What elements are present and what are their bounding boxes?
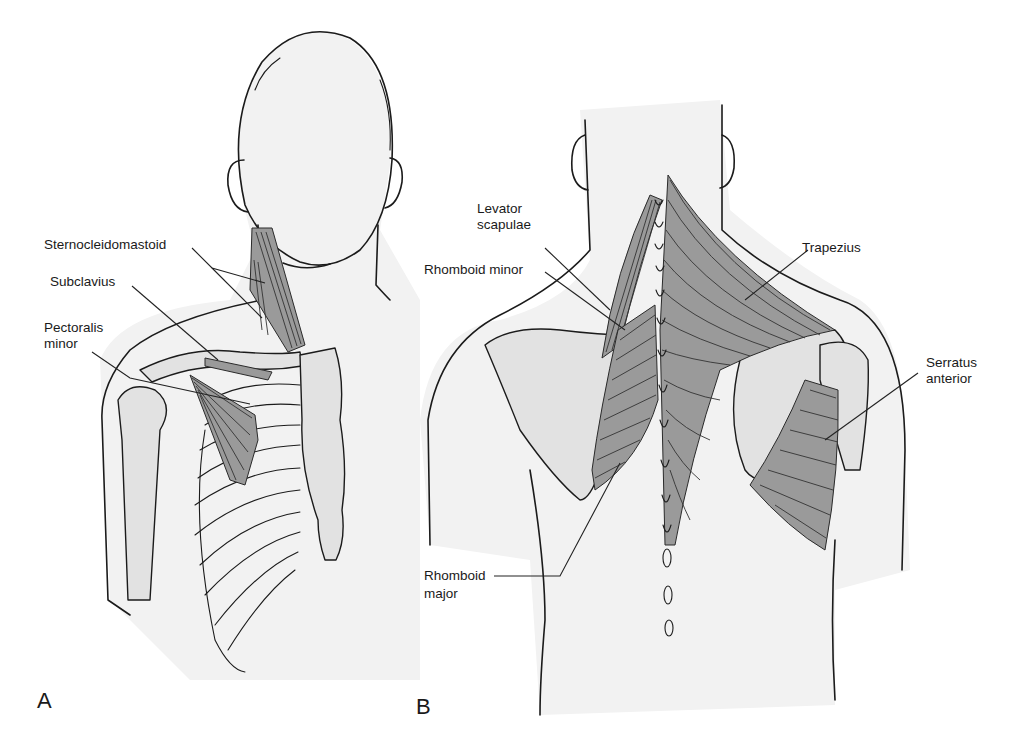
label-pectoralis-minor-line1: Pectoralis	[44, 320, 103, 336]
label-subclavius: Subclavius	[50, 274, 115, 290]
label-sternocleidomastoid: Sternocleidomastoid	[44, 237, 166, 253]
panel-letter-a: A	[37, 688, 52, 714]
anatomy-figure: Sternocleidomastoid Subclavius Pectorali…	[0, 0, 1018, 753]
label-trapezius: Trapezius	[802, 240, 861, 256]
panel-b-drawing	[420, 100, 910, 715]
label-rhomboid-major-line1: Rhomboid	[424, 568, 486, 584]
panel-letter-b: B	[416, 694, 431, 720]
label-pectoralis-minor-line2: minor	[44, 336, 78, 352]
label-serratus-anterior-line1: Serratus	[926, 355, 977, 371]
label-rhomboid-minor: Rhomboid minor	[424, 262, 523, 278]
label-levator-scapulae-line2: scapulae	[477, 217, 531, 233]
anatomy-illustration	[0, 0, 1018, 753]
label-levator-scapulae-line1: Levator	[477, 201, 522, 217]
label-serratus-anterior-line2: anterior	[926, 371, 972, 387]
panel-a-drawing	[100, 31, 420, 680]
label-rhomboid-major-line2: major	[424, 586, 458, 602]
